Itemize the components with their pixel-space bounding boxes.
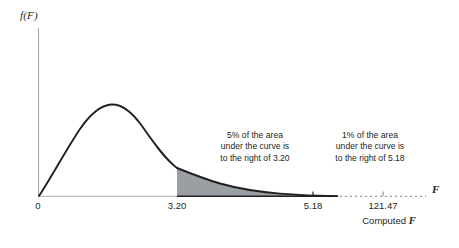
- f-distribution-figure: f(F) F 0 3.20 5.18 121.47 Computed F 5% …: [0, 0, 459, 248]
- annotation-5-percent-line-1: 5% of the area: [220, 130, 289, 141]
- x-axis-caption: Computed F: [362, 215, 416, 226]
- annotation-1-percent-line-3: to the right of 5.18: [335, 153, 404, 164]
- x-axis-symbol-text: F: [432, 183, 439, 195]
- annotation-5-percent-line-3: to the right of 3.20: [220, 153, 289, 164]
- x-axis-symbol-label: F: [432, 183, 439, 195]
- x-axis-caption-symbol: F: [409, 215, 416, 226]
- tick-label-0: 0: [35, 200, 40, 211]
- annotation-1-percent-line-2: under the curve is: [335, 141, 404, 152]
- tick-label-121-47: 121.47: [368, 200, 397, 211]
- tick-label-3-20: 3.20: [168, 200, 187, 211]
- annotation-5-percent-line-2: under the curve is: [220, 141, 289, 152]
- tick-label-5-18: 5.18: [304, 200, 323, 211]
- x-axis-caption-prefix: Computed: [362, 215, 406, 226]
- annotation-5-percent: 5% of the area under the curve is to the…: [220, 130, 289, 164]
- annotation-1-percent-line-1: 1% of the area: [335, 130, 404, 141]
- annotation-1-percent: 1% of the area under the curve is to the…: [335, 130, 404, 164]
